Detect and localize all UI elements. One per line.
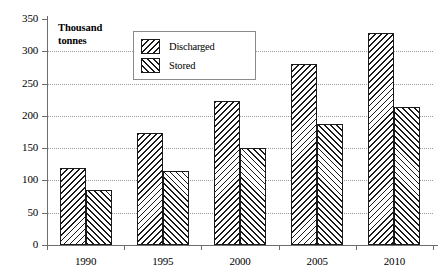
y-tick-mark-150	[42, 148, 48, 149]
y-tick-label-150: 150	[0, 142, 38, 153]
legend-label-discharged: Discharged	[169, 41, 215, 52]
legend-swatch-discharged-icon	[141, 39, 160, 54]
bar-discharged-2010	[368, 33, 394, 245]
x-tick-label-2005: 2005	[282, 255, 352, 267]
x-tick-label-1995: 1995	[128, 255, 198, 267]
legend-item-stored: Stored	[141, 56, 255, 75]
y-tick-mark-350	[42, 19, 48, 20]
y-tick-label-350: 350	[0, 13, 38, 24]
y-tick-label-300: 300	[0, 45, 38, 56]
bar-stored-2010	[394, 107, 420, 245]
x-tick-mark-origin	[47, 245, 48, 250]
legend-item-discharged: Discharged	[141, 37, 255, 56]
x-tick-mark-2	[279, 245, 280, 250]
y-axis-title: Thousand tonnes	[58, 22, 102, 47]
bar-stored-1990	[86, 190, 112, 245]
y-tick-mark-300	[42, 51, 48, 52]
legend-label-stored: Stored	[169, 60, 195, 71]
bar-stored-1995	[163, 171, 189, 245]
bar-discharged-2000	[214, 101, 240, 245]
y-tick-mark-50	[42, 213, 48, 214]
bar-stored-2005	[317, 124, 343, 245]
bar-discharged-1995	[137, 133, 163, 245]
bar-discharged-2005	[291, 64, 317, 245]
x-tick-mark-4	[433, 245, 434, 250]
x-tick-label-2010: 2010	[359, 255, 429, 267]
x-tick-mark-3	[356, 245, 357, 250]
y-tick-label-250: 250	[0, 78, 38, 89]
x-tick-label-1990: 1990	[51, 255, 121, 267]
legend: Discharged Stored	[133, 31, 256, 80]
y-tick-mark-100	[42, 180, 48, 181]
bar-stored-2000	[240, 148, 266, 245]
x-tick-mark-1	[201, 245, 202, 250]
bar-discharged-1990	[60, 168, 86, 245]
y-tick-mark-200	[42, 116, 48, 117]
y-tick-mark-250	[42, 84, 48, 85]
y-tick-label-50: 50	[0, 207, 38, 218]
y-tick-label-200: 200	[0, 110, 38, 121]
x-tick-mark-0	[124, 245, 125, 250]
x-axis-line	[47, 245, 438, 246]
y-tick-label-100: 100	[0, 174, 38, 185]
bar-chart: 050100150200250300350 199019952000200520…	[0, 0, 448, 280]
y-tick-label-0: 0	[0, 239, 38, 250]
x-tick-label-2000: 2000	[205, 255, 275, 267]
legend-swatch-stored-icon	[141, 58, 160, 73]
